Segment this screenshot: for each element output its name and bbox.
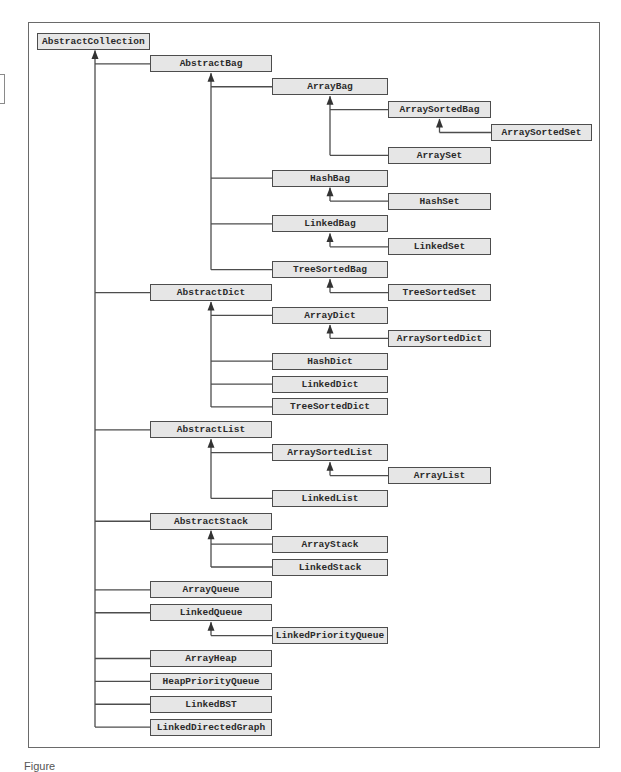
class-node-array-bag: ArrayBag <box>272 78 388 95</box>
class-node-linked-list: LinkedList <box>272 490 388 507</box>
class-node-array-list: ArrayList <box>388 467 491 484</box>
class-node-linked-priority-queue: LinkedPriorityQueue <box>272 627 388 644</box>
class-node-heap-priority-queue: HeapPriorityQueue <box>150 673 272 690</box>
class-node-hash-bag: HashBag <box>272 170 388 187</box>
class-node-linked-bag: LinkedBag <box>272 215 388 232</box>
class-node-array-queue: ArrayQueue <box>150 581 272 598</box>
class-node-tree-sorted-bag: TreeSortedBag <box>272 261 388 278</box>
class-node-linked-stack: LinkedStack <box>272 559 388 576</box>
class-node-linked-set: LinkedSet <box>388 238 491 255</box>
class-node-array-stack: ArrayStack <box>272 536 388 553</box>
class-node-tree-sorted-set: TreeSortedSet <box>388 284 491 301</box>
class-node-array-sorted-dict: ArraySortedDict <box>388 330 491 347</box>
class-node-array-sorted-set: ArraySortedSet <box>491 124 592 141</box>
class-node-linked-dict: LinkedDict <box>272 376 388 393</box>
class-node-hash-set: HashSet <box>388 193 491 210</box>
class-node-array-set: ArraySet <box>388 147 491 164</box>
class-node-hash-dict: HashDict <box>272 353 388 370</box>
adjacent-page-box-fragment <box>0 74 5 104</box>
class-node-array-heap: ArrayHeap <box>150 650 272 667</box>
class-node-array-dict: ArrayDict <box>272 307 388 324</box>
class-node-abstract-stack: AbstractStack <box>150 513 272 530</box>
class-node-array-sorted-list: ArraySortedList <box>272 444 388 461</box>
class-node-tree-sorted-dict: TreeSortedDict <box>272 398 388 415</box>
class-node-abstract-bag: AbstractBag <box>150 55 272 72</box>
figure-caption: Figure <box>24 760 55 772</box>
class-node-abstract-dict: AbstractDict <box>150 284 272 301</box>
class-node-linked-directed-graph: LinkedDirectedGraph <box>150 719 272 736</box>
class-node-linked-bst: LinkedBST <box>150 696 272 713</box>
class-node-abstract-list: AbstractList <box>150 421 272 438</box>
class-node-linked-queue: LinkedQueue <box>150 604 272 621</box>
class-node-abstract-collection: AbstractCollection <box>37 33 150 50</box>
class-node-array-sorted-bag: ArraySortedBag <box>388 101 491 118</box>
